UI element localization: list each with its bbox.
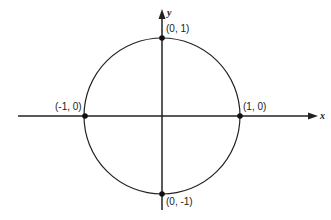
x-axis-label: x: [320, 110, 325, 121]
point-label-left: (-1, 0): [55, 101, 82, 112]
y-axis-label: y: [167, 7, 171, 18]
y-axis-arrow-icon: [159, 9, 166, 19]
point-top: [159, 35, 165, 41]
point-label-top: (0, 1): [166, 23, 189, 34]
point-bottom: [159, 191, 165, 197]
point-label-right: (1, 0): [243, 101, 266, 112]
x-axis: [18, 113, 318, 120]
point-left: [82, 113, 88, 119]
point-label-bottom: (0, -1): [166, 196, 193, 207]
point-right: [237, 113, 243, 119]
x-axis-arrow-icon: [308, 113, 318, 120]
